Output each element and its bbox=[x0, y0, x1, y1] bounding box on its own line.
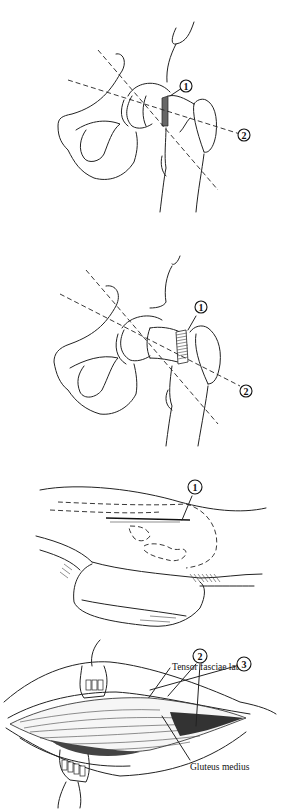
callout-1: 1 bbox=[195, 301, 207, 313]
svg-text:2: 2 bbox=[244, 386, 249, 397]
callout-3: 3 bbox=[237, 657, 251, 671]
callout-2: 2 bbox=[193, 649, 207, 663]
hip-joint-drawing-top: 1 2 bbox=[0, 0, 294, 230]
iliac-outline bbox=[150, 266, 172, 308]
skin-contour bbox=[40, 487, 266, 511]
hip-joint-drawing-middle: 1 2 bbox=[0, 250, 294, 470]
axis-line-2 bbox=[68, 80, 240, 134]
acetabulum-rim bbox=[128, 83, 170, 96]
svg-text:2: 2 bbox=[242, 130, 247, 141]
svg-text:1: 1 bbox=[199, 302, 204, 313]
bony-landmark-dashed bbox=[58, 502, 217, 568]
svg-text:1: 1 bbox=[184, 81, 189, 92]
axis-line-oblique bbox=[98, 50, 218, 190]
obturator-foramen bbox=[70, 357, 118, 397]
femoral-head-line bbox=[143, 96, 146, 126]
label-tensor-fasciae-latae: Tensor fasciae latae bbox=[172, 662, 247, 672]
threaded-screw bbox=[176, 330, 188, 364]
screw-shaded-region bbox=[162, 96, 168, 126]
bolster-outline bbox=[74, 564, 205, 626]
pelvis-outline bbox=[54, 286, 137, 415]
svg-text:2: 2 bbox=[198, 651, 203, 662]
svg-text:1: 1 bbox=[193, 482, 198, 493]
callout-2: 2 bbox=[238, 129, 250, 141]
retractor-upper bbox=[80, 640, 107, 698]
axis-line-oblique bbox=[86, 270, 218, 424]
callout-1: 1 bbox=[180, 80, 192, 92]
obturator-foramen bbox=[76, 121, 120, 161]
panel-surgical-exposure: 1 Tensor fasciae latae bbox=[0, 470, 294, 809]
femoral-shaft-medial bbox=[160, 128, 166, 212]
femoral-shaft-lateral bbox=[198, 386, 208, 446]
femoral-shaft-medial bbox=[166, 366, 172, 446]
panel-hip-screw-top: 1 2 bbox=[0, 0, 294, 230]
svg-text:3: 3 bbox=[242, 659, 247, 670]
femoral-shaft-lateral bbox=[196, 154, 204, 212]
surgical-exposure-drawing: 1 Tensor fasciae latae bbox=[0, 470, 294, 809]
panel-hip-screw-middle: 1 2 bbox=[0, 250, 294, 470]
greater-trochanter bbox=[190, 326, 220, 384]
gluteus-medius-muscle bbox=[10, 698, 246, 756]
callout-2: 2 bbox=[240, 385, 252, 397]
acetabulum-rim bbox=[122, 316, 162, 328]
callout-1: 1 bbox=[188, 480, 202, 494]
label-gluteus-medius: Gluteus medius bbox=[190, 762, 250, 772]
iliac-outline bbox=[172, 22, 194, 44]
incision-line bbox=[106, 518, 190, 520]
